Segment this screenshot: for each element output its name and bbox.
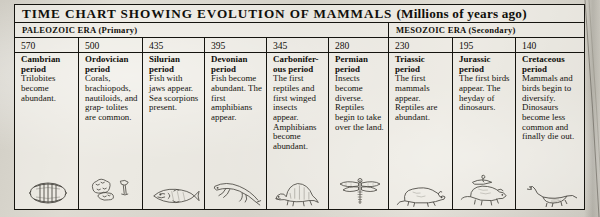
period-description-permian: Insects become diverse. Reptiles begin t… (335, 74, 384, 132)
period-column-silurian: Silurian period Fish with jaws appear. S… (143, 53, 205, 209)
year-cell-140: 140 (516, 38, 584, 52)
time-chart-table: TIME CHART SHOWING EVOLUTION OF MAMMALS … (14, 4, 585, 210)
jawed-fish-icon (149, 175, 200, 209)
chart-title-row: TIME CHART SHOWING EVOLUTION OF MAMMALS … (15, 5, 584, 23)
period-name-permian: Permian period (335, 55, 384, 74)
period-description-cretaceous: Mammals and birds begin to diversify. Di… (522, 74, 580, 142)
year-cell-230: 230 (389, 38, 453, 52)
period-name-silurian: Silurian period (149, 55, 200, 74)
chart-title-main: TIME CHART SHOWING EVOLUTION OF MAMMALS (22, 6, 392, 21)
period-name-ordovician: Ordovician period (85, 55, 138, 74)
dragonfly-icon (335, 175, 384, 209)
horned-dinosaur-bird-icon (459, 175, 511, 209)
year-header-row: 570 500 435 395 345 280 230 195 140 (15, 38, 584, 53)
era-label-mesozoic: MESOZOIC ERA (Secondary) (389, 23, 584, 37)
coral-brachiopod-icon (85, 175, 138, 209)
period-column-permian: Permian period Insects become diverse. R… (329, 53, 389, 209)
period-column-devonian: Devonian period Fish become abundant. Th… (205, 53, 267, 209)
period-name-triassic: Triassic period (395, 55, 448, 74)
period-column-cambrian: Cambrian period Trilobites become abunda… (15, 53, 79, 209)
period-description-jurassic: The first birds appear. The heyday of di… (459, 74, 511, 113)
amphibian-icon (211, 175, 262, 209)
year-cell-345: 345 (267, 38, 329, 52)
year-cell-395: 395 (205, 38, 267, 52)
period-description-silurian: Fish with jaws appear. Sea scorpions pre… (149, 74, 200, 113)
year-cell-195: 195 (453, 38, 516, 52)
year-cell-280: 280 (329, 38, 389, 52)
period-description-triassic: The first mammals appear. Reptiles are a… (395, 74, 448, 123)
period-description-carboniferous: The first reptiles and first winged inse… (273, 74, 324, 152)
period-description-ordovician: Corals, brachiopods, nautiloids, and gra… (85, 74, 138, 123)
period-column-jurassic: Jurassic period The first birds appear. … (453, 53, 516, 209)
sauropod-icon (522, 175, 580, 209)
period-name-cretaceous: Cretaceous period (522, 55, 580, 74)
year-cell-435: 435 (143, 38, 205, 52)
period-column-ordovician: Ordovician period Corals, brachiopods, n… (79, 53, 143, 209)
period-description-cambrian: Trilobites become abundant. (21, 74, 74, 103)
era-header-row: PALEOZOIC ERA (Primary) MESOZOIC ERA (Se… (15, 23, 584, 38)
chart-title-units: (Millions of years ago) (397, 6, 527, 21)
period-name-jurassic: Jurassic period (459, 55, 511, 74)
period-description-devonian: Fish become abundant. The first amphibia… (211, 74, 262, 123)
period-column-carboniferous: Carbonifer- ous period The first reptile… (267, 53, 329, 209)
sail-back-reptile-icon (273, 175, 324, 209)
period-name-devonian: Devonian period (211, 55, 262, 74)
year-cell-570: 570 (15, 38, 79, 52)
year-cell-500: 500 (79, 38, 143, 52)
period-column-cretaceous: Cretaceous period Mammals and birds begi… (516, 53, 584, 209)
trilobite-icon (21, 175, 74, 209)
period-name-carboniferous: Carbonifer- ous period (273, 55, 324, 74)
period-name-cambrian: Cambrian period (21, 55, 74, 74)
period-columns-row: Cambrian period Trilobites become abunda… (15, 53, 584, 209)
period-column-triassic: Triassic period The first mammals appear… (389, 53, 453, 209)
page-title: TIME CHART SHOWING EVOLUTION OF MAMMALS … (22, 6, 527, 22)
era-label-paleozoic: PALEOZOIC ERA (Primary) (15, 23, 389, 37)
early-mammal-icon (395, 175, 448, 209)
